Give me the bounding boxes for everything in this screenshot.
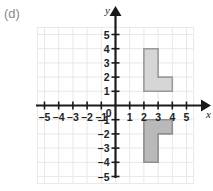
x-tick-label: 5: [184, 111, 190, 123]
x-tick-label: –2: [81, 111, 93, 123]
origin-label: 0: [106, 107, 112, 119]
coordinate-plane: –5–4–3–2–11234554321–1–2–3–4–50 y x: [0, 0, 213, 191]
y-tick-label: –2: [98, 128, 110, 140]
x-axis-label: x: [205, 108, 211, 120]
y-tick-label: 4: [104, 43, 110, 55]
y-tick-label: –4: [98, 156, 110, 168]
figure-panel: (d) –5–4–3–2–11234554321–1–2–3–4–50 y x: [0, 0, 213, 191]
x-tick-label: –5: [39, 111, 51, 123]
y-axis-label: y: [104, 4, 110, 16]
x-tick-label: –3: [67, 111, 79, 123]
y-tick-label: 2: [104, 71, 110, 83]
y-tick-label: 5: [104, 29, 110, 41]
x-tick-label: 3: [155, 111, 161, 123]
y-axis-arrowhead: [110, 6, 122, 16]
x-tick-label: 1: [127, 111, 133, 123]
y-tick-label: 1: [104, 85, 110, 97]
y-tick-label: –3: [98, 142, 110, 154]
x-tick-label: 2: [141, 111, 147, 123]
x-tick-label: 4: [169, 111, 175, 123]
y-tick-label: 3: [104, 57, 110, 69]
x-tick-label: –4: [53, 111, 65, 123]
y-tick-label: –5: [98, 171, 110, 183]
